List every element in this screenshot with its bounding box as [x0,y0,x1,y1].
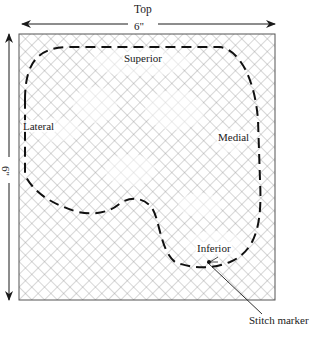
stitch-marker-label: Stitch marker [248,314,310,326]
region-label-inferior: Inferior [196,242,232,254]
top-label: Top [133,3,153,15]
region-label-medial: Medial [217,131,250,143]
region-label-superior: Superior [123,52,163,64]
region-label-lateral: Lateral [22,120,55,132]
height-dimension-label: 6" [0,166,14,176]
width-dimension-label: 6" [130,20,148,32]
mesh-square [19,34,275,300]
diagram-canvas: Top 6" 6" Superior Lateral Medial Inferi… [0,0,315,338]
mesh-square-diagram [0,0,315,338]
